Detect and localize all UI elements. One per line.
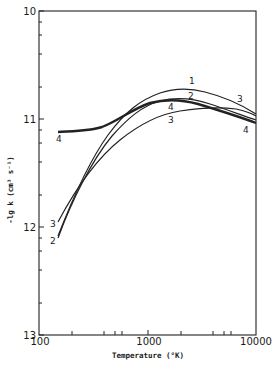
curve-label-2-bottom: 2 — [50, 236, 56, 246]
x-tick-100: 100 — [30, 336, 49, 347]
y-tick-11: 11 — [23, 114, 36, 125]
x-tick-1000: 1000 — [136, 336, 161, 347]
x-tick-10000: 10000 — [240, 336, 272, 347]
curve-label-4-left: 4 — [56, 134, 62, 144]
curve-1 — [58, 89, 256, 236]
curve-label-3-left: 3 — [50, 219, 56, 229]
y-axis-title: -lg k (cm³ s⁻¹) — [6, 156, 15, 224]
curve-label-4-right: 4 — [243, 125, 249, 135]
y-tick-10: 10 — [23, 6, 36, 17]
curves — [58, 89, 256, 238]
curve-label-3-mid: 3 — [168, 115, 174, 125]
y-tick-12: 12 — [23, 222, 36, 233]
curve-label-1: 1 — [189, 76, 195, 86]
y-ticks — [39, 11, 44, 335]
curve-label-2-top: 2 — [188, 91, 194, 101]
x-ticks — [72, 330, 231, 335]
x-axis-title: Temperature (°K) — [112, 351, 184, 360]
chart: 10 11 12 13 100 1000 10000 Temperature (… — [0, 0, 275, 368]
curve-3 — [58, 108, 256, 222]
curve-4 — [58, 100, 256, 132]
curve-label-3-right: 3 — [237, 94, 243, 104]
plot-frame — [39, 11, 256, 335]
curve-label-4-mid: 4 — [168, 102, 174, 112]
